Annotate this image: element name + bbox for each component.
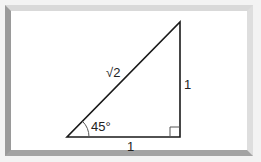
vertical-side-label: 1 — [184, 77, 191, 92]
horizontal-side-label: 1 — [127, 139, 134, 154]
angle-label: 45° — [91, 119, 111, 134]
hypotenuse-label: √2 — [106, 65, 120, 80]
right-angle-marker — [170, 127, 180, 137]
triangle — [67, 22, 180, 137]
angle-arc — [83, 121, 90, 137]
triangle-diagram: √2 45° 1 1 — [0, 0, 261, 162]
